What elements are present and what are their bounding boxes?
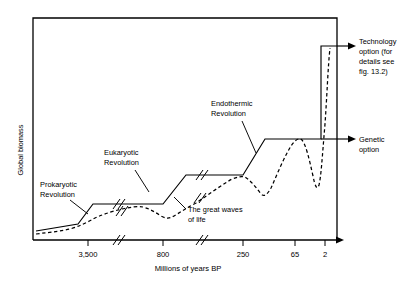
annotation-endothermic-line2: Revolution [211, 109, 246, 118]
annotation-technology-line4: fig. 13.2) [359, 67, 388, 76]
annotation-great-waves-line1: The great waves [188, 205, 243, 214]
annotation-great-waves-line2: of life [188, 215, 206, 224]
genetic-option-arrow [321, 136, 356, 143]
biomass-evolution-chart: 3,500 800 250 65 2 Millions of years BP … [0, 0, 411, 283]
annotation-prokaryotic-line1: Prokaryotic [40, 180, 77, 189]
annotation-technology-line3: details see [359, 57, 394, 66]
technology-option-arrow [337, 43, 356, 50]
annotation-technology-line1: Technology [359, 37, 397, 46]
leader-line-endothermic [242, 121, 256, 153]
x-tick-label-2: 2 [323, 250, 327, 259]
x-tick-label-3500: 3,500 [78, 250, 97, 259]
annotation-eukaryotic-line1: Eukaryotic [104, 148, 139, 157]
leader-line-great-waves [174, 197, 186, 209]
annotation-genetic-line2: option [359, 145, 379, 154]
x-tick-label-800: 800 [157, 250, 170, 259]
waves-curve-break-mark-1 [116, 206, 128, 216]
annotation-technology-line2: option (for [359, 47, 393, 56]
annotation-prokaryotic-line2: Revolution [40, 190, 75, 199]
y-axis-label: Global biomass [16, 124, 25, 175]
annotation-genetic-line1: Genetic [359, 135, 385, 144]
annotation-eukaryotic-line2: Revolution [104, 158, 139, 167]
x-axis-ticks [88, 240, 325, 246]
x-axis-arrowhead [336, 237, 344, 244]
leader-line-eukaryotic [135, 170, 149, 192]
x-tick-label-250: 250 [237, 250, 250, 259]
x-tick-label-65: 65 [291, 250, 299, 259]
annotation-endothermic-line1: Endothermic [211, 99, 253, 108]
x-axis-title: Millions of years BP [155, 264, 222, 273]
leader-line-prokaryotic [70, 200, 88, 214]
biomass-step-curve [36, 46, 337, 231]
